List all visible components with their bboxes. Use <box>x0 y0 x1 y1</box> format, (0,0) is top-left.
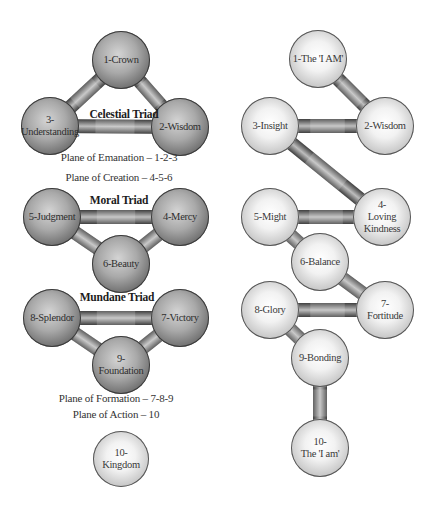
sephirah-label: 8-Splendor <box>30 312 74 324</box>
sephirah-label: 9- Foundation <box>99 353 144 377</box>
sephirah-label: 10- The 'I am' <box>301 436 340 460</box>
sephirah-label: 3- Understanding <box>21 114 79 138</box>
sephirah-label: 9-Bonding <box>299 352 341 364</box>
sephirah-node-l3: 3- Understanding <box>21 97 79 155</box>
sephirah-label: 5-Judgment <box>29 211 76 223</box>
sephirah-label: 1-The 'I AM' <box>293 53 343 65</box>
sephirah-node-l4: 4-Mercy <box>151 188 209 246</box>
plane-caption-creation: Plane of Creation – 4-5-6 <box>66 171 173 183</box>
sephirah-label: 2-Wisdom <box>364 120 406 132</box>
plane-caption-emanation: Plane of Emanation – 1-2-3 <box>61 151 177 163</box>
sephirah-label: 5-Might <box>254 211 286 223</box>
sephirah-node-r7: 7- Fortitude <box>356 281 414 339</box>
sephirah-node-l6: 6-Beauty <box>92 235 150 293</box>
sephirah-node-l1: 1-Crown <box>92 31 150 89</box>
plane-caption-action: Plane of Action – 10 <box>73 408 159 420</box>
sephirah-node-r1: 1-The 'I AM' <box>289 30 347 88</box>
sephirah-node-r6: 6-Balance <box>291 233 349 291</box>
sephirah-label: 1-Crown <box>103 54 138 66</box>
sephirah-label: 7- Fortitude <box>367 298 403 322</box>
sephirah-label: 6-Beauty <box>103 258 139 270</box>
sephirah-label: 4-Mercy <box>163 211 197 223</box>
sephirah-node-r5: 5-Might <box>241 188 299 246</box>
sephirah-node-l2: 2-Wisdom <box>151 98 209 156</box>
sephirah-label: 4- Loving Kindness <box>364 199 401 235</box>
sephirah-node-r10: 10- The 'I am' <box>291 419 349 477</box>
sephirah-node-l7: 7-Victory <box>151 289 209 347</box>
sephirah-node-r9: 9-Bonding <box>291 329 349 387</box>
sephirah-label: 2-Wisdom <box>159 121 201 133</box>
sephirah-node-r8: 8-Glory <box>241 281 299 339</box>
sephirah-label: 8-Glory <box>254 304 285 316</box>
sephirah-node-r4: 4- Loving Kindness <box>353 188 411 246</box>
tree-of-life-diagram: 1-Crown2-Wisdom3- Understanding4-Mercy5-… <box>0 0 432 512</box>
triad-title-mundane: Mundane Triad <box>80 291 155 303</box>
plane-caption-formation: Plane of Formation – 7-8-9 <box>59 392 174 404</box>
sephirah-node-l10: 10- Kingdom <box>93 431 149 487</box>
sephirah-node-l8: 8-Splendor <box>23 289 81 347</box>
sephirah-label: 10- Kingdom <box>102 447 140 471</box>
connector-layer <box>0 0 432 512</box>
sephirah-label: 6-Balance <box>300 256 340 268</box>
sephirah-label: 7-Victory <box>161 312 199 324</box>
triad-title-celestial: Celestial Triad <box>89 108 158 120</box>
sephirah-node-r3: 3-Insight <box>241 97 299 155</box>
sephirah-label: 3-Insight <box>252 120 287 132</box>
sephirah-node-l9: 9- Foundation <box>92 336 150 394</box>
sephirah-node-r2: 2-Wisdom <box>356 97 414 155</box>
triad-title-moral: Moral Triad <box>90 194 148 206</box>
sephirah-node-l5: 5-Judgment <box>23 188 81 246</box>
